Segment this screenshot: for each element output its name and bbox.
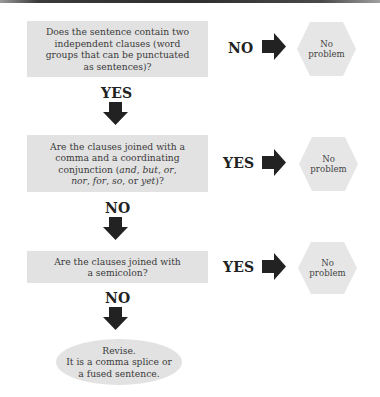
- question-2-line-2: comma and a coordinating: [50, 152, 185, 164]
- outcome-1-line-1: No: [308, 39, 344, 50]
- question-2-line-3: conjunction (and, but, or,: [50, 164, 185, 176]
- outcome-2-line-2: problem: [310, 164, 346, 175]
- top-border-bar: [0, 0, 380, 3]
- question-1-line-2: independent clauses (word: [46, 38, 190, 50]
- arrow-down-icon: [103, 102, 128, 125]
- outcome-2-line-1: No: [310, 154, 346, 165]
- question-box-3: Are the clauses joined with a semicolon?: [27, 251, 208, 283]
- outcome-3-line-2: problem: [309, 268, 345, 279]
- arrow-right-icon: [261, 149, 287, 176]
- outcome-hexagon-2: No problem: [299, 137, 358, 191]
- outcome-hexagon-3: No problem: [298, 242, 357, 294]
- text: or: [164, 164, 174, 175]
- outcome-hexagon-1: No problem: [297, 22, 356, 76]
- branch-label-yes-2: YES: [223, 155, 254, 171]
- arrow-down-icon: [103, 307, 128, 330]
- branch-label-yes-1: YES: [101, 85, 132, 101]
- text: ,: [174, 164, 177, 175]
- arrow-right-icon: [261, 253, 287, 280]
- text: and: [119, 164, 136, 175]
- text: but: [142, 164, 158, 175]
- text: yet: [141, 175, 155, 186]
- question-3-line-2: a semicolon?: [54, 267, 181, 279]
- arrow-down-icon: [103, 217, 128, 240]
- branch-label-yes-3: YES: [223, 259, 254, 275]
- question-3-line-1: Are the clauses joined with: [54, 256, 181, 268]
- arrow-right-icon: [261, 33, 287, 60]
- question-box-2: Are the clauses joined with a comma and …: [27, 135, 208, 192]
- text: so: [112, 175, 122, 186]
- text: conjunction (: [58, 164, 119, 175]
- text: )?: [155, 175, 164, 186]
- branch-label-no-2: NO: [105, 200, 130, 216]
- question-2-line-1: Are the clauses joined with a: [50, 141, 185, 153]
- outcome-3-line-1: No: [309, 258, 345, 269]
- final-line-2: It is a comma splice or: [66, 356, 172, 368]
- question-1-line-3: groups that can be punctuated: [46, 49, 190, 61]
- final-line-3: a fused sentence.: [78, 368, 159, 380]
- final-outcome-ellipse: Revise. It is a comma splice or a fused …: [56, 339, 182, 385]
- outcome-1-line-2: problem: [308, 49, 344, 60]
- text: for: [93, 175, 106, 186]
- branch-label-no-1: NO: [228, 40, 253, 56]
- question-2-line-4: nor, for, so, or yet)?: [50, 175, 185, 187]
- branch-label-no-3: NO: [105, 290, 130, 306]
- final-line-1: Revise.: [102, 345, 136, 357]
- question-1-line-4: as sentences)?: [46, 61, 190, 73]
- text: , or: [122, 175, 141, 186]
- question-box-1: Does the sentence contain two independen…: [27, 21, 208, 77]
- text: nor: [71, 175, 87, 186]
- question-1-line-1: Does the sentence contain two: [46, 26, 190, 38]
